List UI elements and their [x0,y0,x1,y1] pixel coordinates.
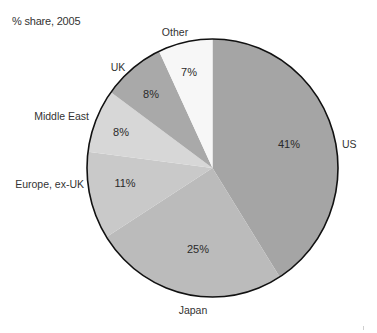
scan-mark [363,326,364,330]
pct-other: 7% [181,66,197,78]
label-uk: UK [111,61,126,73]
pct-middle-east: 8% [113,126,129,138]
label-middle-east: Middle East [34,110,89,122]
pct-japan: 25% [187,243,209,255]
pie-chart [0,0,377,333]
pct-europe-ex-uk: 11% [114,177,135,189]
label-us: US [342,138,357,150]
pct-us: 41% [278,138,300,150]
pie-slices [87,39,338,297]
label-other: Other [162,26,188,38]
label-japan: Japan [179,304,208,316]
pct-uk: 8% [143,88,159,100]
label-europe-ex-uk: Europe, ex-UK [15,178,84,190]
